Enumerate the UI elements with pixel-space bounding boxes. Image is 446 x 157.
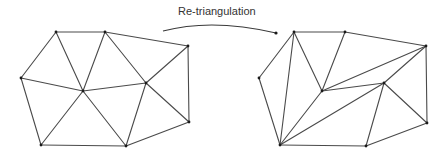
mesh-edge-B-E	[83, 32, 105, 91]
mesh-vertex-D	[258, 77, 261, 80]
mesh-edge-E-H	[41, 91, 83, 145]
mesh-vertex-A	[293, 31, 296, 34]
mesh-vertex-B	[344, 31, 347, 34]
arrow-curve	[163, 25, 276, 33]
mesh-vertex-I	[125, 145, 128, 148]
mesh-edge-F-G	[384, 83, 427, 123]
mesh-vertex-C	[425, 45, 428, 48]
mesh-vertex-H	[40, 144, 43, 147]
mesh-vertex-G	[188, 121, 191, 124]
mesh-edge-D-A	[21, 32, 56, 78]
mesh-edge-F-I	[126, 83, 146, 146]
mesh-edge-C-G	[188, 46, 189, 122]
mesh-vertex-H	[279, 144, 282, 147]
mesh-edge-G-I	[366, 123, 427, 146]
mesh-edge-G-I	[126, 122, 189, 146]
mesh-edge-H-D	[21, 78, 41, 145]
mesh-edge-B-C	[105, 32, 188, 46]
mesh-edge-C-G	[426, 46, 427, 123]
mesh-vertex-D	[20, 77, 23, 80]
mesh-edge-B-C	[345, 32, 426, 46]
original-mesh	[20, 31, 191, 148]
retriangulation-arrow	[163, 25, 278, 35]
mesh-vertex-B	[104, 31, 107, 34]
mesh-edge-A-E	[56, 32, 83, 91]
mesh-vertex-F	[145, 82, 148, 85]
mesh-edge-F-C	[384, 46, 426, 83]
mesh-edge-I-H	[280, 145, 366, 146]
mesh-edge-H-D	[259, 78, 280, 145]
retriangulation-diagram	[0, 0, 446, 157]
arrow-label: Re-triangulation	[178, 6, 256, 17]
mesh-vertex-E	[82, 90, 85, 93]
mesh-edge-E-F	[83, 83, 146, 91]
mesh-vertex-E	[321, 90, 324, 93]
mesh-vertex-C	[187, 45, 190, 48]
mesh-edge-D-E	[21, 78, 83, 91]
mesh-edge-I-H	[41, 145, 126, 146]
mesh-edge-C-F	[146, 46, 188, 83]
mesh-edge-A-H	[280, 32, 294, 145]
mesh-vertex-A	[55, 31, 58, 34]
mesh-edge-F-G	[146, 83, 189, 122]
retriangulated-mesh	[258, 31, 429, 148]
mesh-edge-B-F	[105, 32, 146, 83]
mesh-vertex-I	[365, 145, 368, 148]
mesh-edge-A-E	[294, 32, 322, 91]
mesh-vertex-F	[383, 82, 386, 85]
mesh-edge-E-H	[280, 91, 322, 145]
mesh-vertex-G	[426, 122, 429, 125]
arrow-tip-icon	[274, 31, 277, 34]
mesh-edge-E-I	[83, 91, 126, 146]
